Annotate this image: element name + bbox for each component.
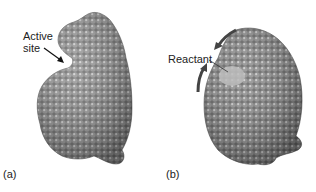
enzyme-molecule-a — [0, 0, 158, 192]
panel-b-enzyme-substrate: Reactant (b) — [158, 0, 316, 192]
active-site-label-line1: Active — [23, 30, 53, 42]
induced-fit-arrow-left — [198, 68, 204, 92]
enzyme-molecule-b — [158, 0, 316, 192]
reactant-label: Reactant — [168, 53, 212, 65]
active-site-label-line2: site — [23, 42, 53, 54]
panel-label-b: (b) — [166, 168, 179, 180]
active-site-label: Active site — [23, 30, 53, 54]
panel-a-enzyme: Active site (a) — [0, 0, 158, 192]
panel-label-a: (a) — [3, 168, 16, 180]
